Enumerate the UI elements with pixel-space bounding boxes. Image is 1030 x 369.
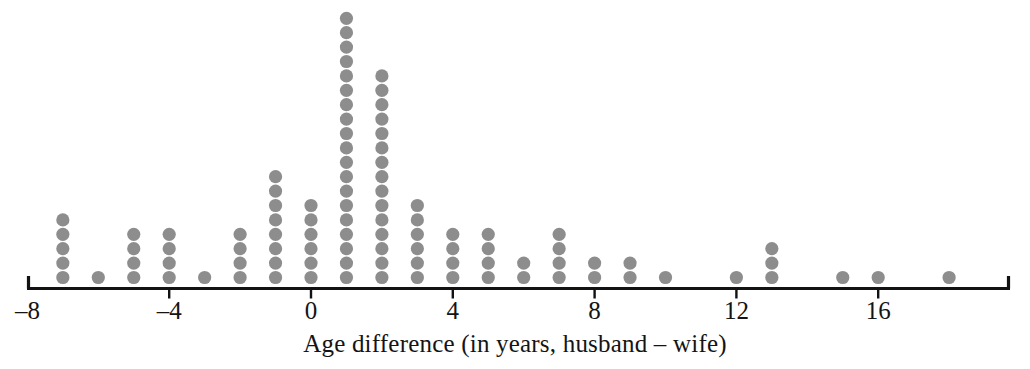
data-dot [340, 257, 353, 270]
data-dot [446, 271, 459, 284]
data-dot [269, 228, 282, 241]
data-dot [659, 271, 672, 284]
data-dot [234, 271, 247, 284]
data-dot [340, 113, 353, 126]
dot-stack [553, 228, 566, 284]
dot-stack [198, 271, 211, 284]
dot-stack [375, 69, 388, 284]
data-dot [375, 185, 388, 198]
data-dot [127, 257, 140, 270]
data-dot [446, 228, 459, 241]
data-dot [92, 271, 105, 284]
data-dot [411, 257, 424, 270]
data-dot [269, 199, 282, 212]
data-dot [553, 271, 566, 284]
dot-stack [56, 213, 69, 284]
data-dot [56, 228, 69, 241]
data-dot [765, 242, 778, 255]
x-axis-tick-label: 8 [588, 298, 601, 323]
dot-stack [623, 257, 636, 285]
dot-stack [588, 257, 601, 285]
data-dot [234, 228, 247, 241]
data-dot [375, 199, 388, 212]
data-dot [375, 84, 388, 97]
data-dot [269, 242, 282, 255]
data-dot [730, 271, 743, 284]
dot-stack [730, 271, 743, 284]
data-dot [411, 228, 424, 241]
dot-stack [411, 199, 424, 284]
data-dot [269, 213, 282, 226]
data-dot [375, 98, 388, 111]
dot-stack [943, 271, 956, 284]
data-dot [304, 199, 317, 212]
data-dot [234, 242, 247, 255]
x-axis-tick-label: 4 [447, 298, 460, 323]
data-dot [623, 271, 636, 284]
data-dot [340, 228, 353, 241]
dot-stack [234, 228, 247, 284]
data-dot [375, 127, 388, 140]
data-dot [340, 199, 353, 212]
data-dot [163, 271, 176, 284]
dot-stack [765, 242, 778, 284]
data-dot [127, 242, 140, 255]
data-dot [304, 242, 317, 255]
data-dot [127, 228, 140, 241]
data-dot [304, 257, 317, 270]
data-dot [482, 242, 495, 255]
data-dot [340, 98, 353, 111]
data-dot [56, 257, 69, 270]
data-dot [836, 271, 849, 284]
data-dot [553, 228, 566, 241]
data-dot [553, 257, 566, 270]
data-dot [340, 271, 353, 284]
data-dot [340, 55, 353, 68]
dot-stacks-layer [56, 12, 955, 284]
data-dot [340, 84, 353, 97]
data-dot [588, 257, 601, 270]
data-dot [304, 228, 317, 241]
data-dot [765, 271, 778, 284]
dot-stack [163, 228, 176, 284]
data-dot [375, 141, 388, 154]
data-dot [517, 257, 530, 270]
dot-stack [127, 228, 140, 284]
data-dot [234, 257, 247, 270]
data-dot [446, 242, 459, 255]
data-dot [482, 271, 495, 284]
data-dot [411, 199, 424, 212]
data-dot [56, 213, 69, 226]
data-dot [269, 170, 282, 183]
dot-stack [304, 199, 317, 284]
data-dot [482, 228, 495, 241]
x-axis-tick-label: –4 [157, 298, 182, 323]
data-dot [872, 271, 885, 284]
data-dot [340, 185, 353, 198]
data-dot [269, 185, 282, 198]
data-dot [340, 213, 353, 226]
dot-stack [872, 271, 885, 284]
data-dot [623, 257, 636, 270]
dot-stack [340, 12, 353, 284]
x-axis-tick-label: –8 [15, 298, 40, 323]
data-dot [517, 271, 530, 284]
data-dot [340, 242, 353, 255]
data-dot [198, 271, 211, 284]
data-dot [375, 213, 388, 226]
data-dot [56, 271, 69, 284]
x-axis-tick-label: 12 [724, 298, 749, 323]
data-dot [340, 12, 353, 25]
data-dot [304, 213, 317, 226]
data-dot [765, 257, 778, 270]
data-dot [446, 257, 459, 270]
data-dot [375, 156, 388, 169]
data-dot [304, 271, 317, 284]
data-dot [375, 257, 388, 270]
dot-stack [482, 228, 495, 284]
data-dot [269, 271, 282, 284]
data-dot [340, 170, 353, 183]
x-axis-tick-label: 16 [866, 298, 891, 323]
dot-stack [446, 228, 459, 284]
data-dot [375, 242, 388, 255]
